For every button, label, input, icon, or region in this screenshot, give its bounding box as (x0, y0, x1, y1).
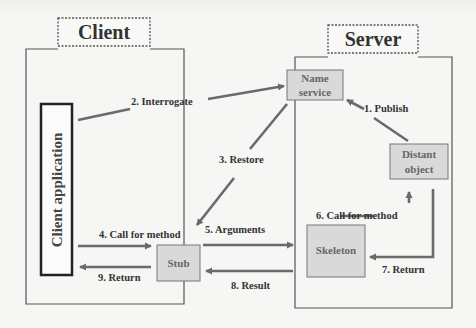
publish-arrow-lower (374, 118, 408, 141)
name-service-node: Name service (287, 70, 343, 100)
edge-1-label: 1. Publish (364, 103, 409, 114)
distant-object-label-line2: object (405, 163, 434, 175)
interrogate-arrow-head (208, 86, 284, 99)
edge-2-interrogate: 2. Interrogate (78, 86, 284, 120)
publish-arrow-head (347, 100, 364, 109)
edge-3-restore: 3. Restore (197, 104, 287, 225)
edge-8-result: 8. Result (206, 271, 293, 291)
stub-label: Stub (167, 257, 189, 269)
restore-arrow-head (197, 178, 234, 225)
client-application-label: Client application (49, 132, 65, 247)
edge-8-label: 8. Result (231, 280, 271, 291)
edge-5-arguments: 5. Arguments (203, 224, 293, 245)
name-service-label-line1: Name (301, 72, 329, 84)
edge-3-label: 3. Restore (219, 154, 264, 165)
interrogate-arrow-tail (78, 109, 130, 120)
edge-9-label: 9. Return (98, 272, 141, 283)
distant-object-node: Distant object (390, 144, 448, 179)
skeleton-label: Skeleton (316, 244, 356, 256)
distant-object-label-line1: Distant (402, 148, 437, 160)
edge-4-call-for-method: 4. Call for method (78, 229, 181, 246)
edge-7-label: 7. Return (382, 264, 425, 275)
client-application-node: Client application (41, 104, 72, 275)
rmi-diagram: Client Server Client application Name se… (0, 0, 476, 328)
client-title: Client (78, 21, 131, 43)
restore-arrow-upper (250, 104, 287, 149)
edge-6-label: 6. Call for method (316, 210, 398, 221)
edge-4-label: 4. Call for method (99, 229, 181, 240)
name-service-label-line2: service (299, 86, 331, 98)
skeleton-node: Skeleton (307, 225, 365, 277)
edge-1-publish: 1. Publish (347, 100, 409, 141)
edge-5-label: 5. Arguments (205, 224, 265, 235)
stub-node: Stub (157, 245, 200, 281)
edge-9-return: 9. Return (80, 267, 151, 283)
edge-6-call-for-method: 6. Call for method (316, 192, 409, 221)
server-title: Server (345, 28, 402, 50)
edge-7-return: 7. Return (370, 189, 433, 275)
edge-2-label: 2. Interrogate (131, 96, 193, 107)
